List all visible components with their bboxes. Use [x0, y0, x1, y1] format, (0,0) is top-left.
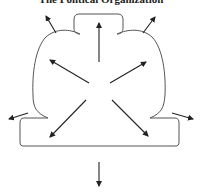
arrow-inner-upper-right: [110, 62, 146, 83]
organization-diagram: [0, 0, 202, 192]
arrow-upper-left-outer: [46, 16, 56, 33]
arrow-inner-upper-left: [50, 60, 89, 83]
arrow-inner-lower-left: [50, 100, 86, 137]
arrow-inner-lower-right: [112, 100, 148, 136]
arrow-upper-right-outer: [143, 17, 155, 33]
